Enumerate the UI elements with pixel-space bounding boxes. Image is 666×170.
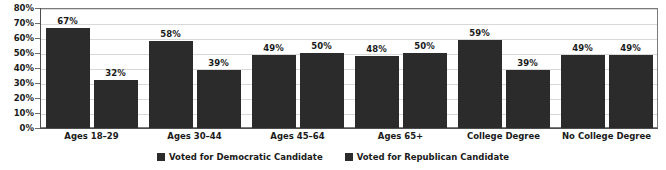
x-axis-category-label: Ages 18–29 [40, 131, 143, 142]
legend-label: Voted for Democratic Candidate [169, 152, 323, 162]
y-axis-tick-mark [35, 53, 40, 54]
y-axis-tick-label: 80% [0, 4, 34, 13]
legend-item[interactable]: Voted for Republican Candidate [345, 152, 509, 162]
bar-groups: 67%32%58%39%49%50%48%50%59%39%49%49% [40, 8, 658, 128]
x-axis-category-label: Ages 65+ [349, 131, 452, 142]
bar-group: 67%32% [40, 8, 143, 128]
bar-rect [197, 70, 241, 129]
y-axis-tick-mark [35, 68, 40, 69]
bar-value-label: 58% [160, 30, 180, 39]
bar: 39% [197, 8, 241, 128]
bar: 50% [300, 8, 344, 128]
bar: 39% [506, 8, 550, 128]
bar: 48% [355, 8, 399, 128]
y-axis-tick-label: 60% [0, 34, 34, 43]
bar-value-label: 50% [311, 42, 331, 51]
y-axis-tick-label: 50% [0, 49, 34, 58]
x-axis-category-labels: Ages 18–29Ages 30–44Ages 45–64Ages 65+Co… [40, 131, 658, 145]
bar: 58% [149, 8, 193, 128]
bar-value-label: 49% [620, 44, 640, 53]
bar-value-label: 49% [572, 44, 592, 53]
y-axis-tick-mark [35, 113, 40, 114]
bar: 49% [252, 8, 296, 128]
x-axis-category-label: No College Degree [555, 131, 658, 142]
bar-value-label: 50% [414, 42, 434, 51]
y-axis-tick-mark [35, 38, 40, 39]
y-axis-tick-mark [35, 83, 40, 84]
x-axis-line [40, 128, 658, 129]
bar-group: 49%49% [555, 8, 658, 128]
bar-rect [300, 53, 344, 128]
bar-rect [561, 55, 605, 129]
y-axis-tick-label: 0% [0, 124, 34, 133]
bar-value-label: 32% [105, 69, 125, 78]
legend-swatch-icon [345, 153, 353, 161]
legend-item[interactable]: Voted for Democratic Candidate [157, 152, 323, 162]
bar-value-label: 48% [366, 45, 386, 54]
y-axis-tick-label: 70% [0, 19, 34, 28]
bar-rect [94, 80, 138, 128]
x-axis-category-label: Ages 30–44 [143, 131, 246, 142]
bar: 49% [561, 8, 605, 128]
bar-group: 58%39% [143, 8, 246, 128]
bar: 67% [46, 8, 90, 128]
bar-group: 49%50% [246, 8, 349, 128]
bar-rect [458, 40, 502, 129]
y-axis: 0%10%20%30%40%50%60%70%80% [0, 0, 34, 132]
chart-legend: Voted for Democratic CandidateVoted for … [0, 150, 666, 164]
y-axis-tick-mark [35, 128, 40, 129]
bar-rect [149, 41, 193, 128]
bar-group: 48%50% [349, 8, 452, 128]
y-axis-tick-label: 30% [0, 79, 34, 88]
x-axis-category-label: College Degree [452, 131, 555, 142]
legend-swatch-icon [157, 153, 165, 161]
bar-rect [252, 55, 296, 129]
bar-rect [506, 70, 550, 129]
bar-value-label: 39% [517, 59, 537, 68]
bar-group: 59%39% [452, 8, 555, 128]
bar: 32% [94, 8, 138, 128]
bar-rect [355, 56, 399, 128]
bar-value-label: 59% [469, 29, 489, 38]
bar: 50% [403, 8, 447, 128]
bar-rect [403, 53, 447, 128]
bar-chart: 0%10%20%30%40%50%60%70%80% 67%32%58%39%4… [0, 0, 666, 170]
y-axis-tick-mark [35, 23, 40, 24]
bar-value-label: 67% [57, 17, 77, 26]
bar: 59% [458, 8, 502, 128]
legend-label: Voted for Republican Candidate [357, 152, 509, 162]
bar: 49% [609, 8, 653, 128]
y-axis-tick-mark [35, 98, 40, 99]
y-axis-tick-label: 10% [0, 109, 34, 118]
bar-rect [609, 55, 653, 129]
y-axis-tick-mark [35, 8, 40, 9]
bar-value-label: 49% [263, 44, 283, 53]
bar-value-label: 39% [208, 59, 228, 68]
y-axis-tick-label: 20% [0, 94, 34, 103]
x-axis-category-label: Ages 45–64 [246, 131, 349, 142]
bar-rect [46, 28, 90, 129]
y-axis-tick-label: 40% [0, 64, 34, 73]
